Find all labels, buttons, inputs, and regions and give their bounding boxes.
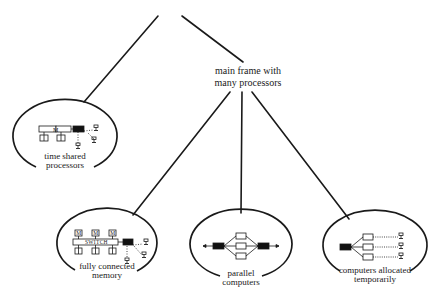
svg-text:SWITCH: SWITCH xyxy=(85,239,108,245)
ellipse-outline xyxy=(323,210,427,271)
edge-root-to-main-frame xyxy=(182,16,243,62)
node-parallel xyxy=(190,209,292,276)
label-line: memory xyxy=(66,271,148,280)
node-allocated xyxy=(323,210,427,271)
svg-text:M: M xyxy=(110,230,115,236)
allocated-label: computers allocated temporarily xyxy=(325,266,425,284)
terminal-icon xyxy=(399,253,403,259)
time-shared-schematic: M xyxy=(39,125,98,149)
cpu-block xyxy=(123,239,133,245)
edge-main-frame-to-allocated xyxy=(252,92,349,219)
controller-block xyxy=(340,244,351,250)
fully-connected-schematic: M M M SWITCH xyxy=(73,230,148,264)
time-shared-label: time shared processors xyxy=(25,152,105,170)
label-line: many processors xyxy=(198,77,298,89)
terminal-icon xyxy=(94,125,98,131)
computer-box xyxy=(236,253,246,259)
edge-root-to-time-shared xyxy=(84,16,158,102)
terminal-icon xyxy=(142,252,146,258)
memory-label: M xyxy=(53,127,59,133)
svg-text:M: M xyxy=(76,230,81,236)
cpu-block xyxy=(73,126,84,132)
output-block xyxy=(258,243,269,249)
input-block xyxy=(213,243,224,249)
label-line: main frame with xyxy=(198,65,298,77)
label-line: computers xyxy=(201,278,281,287)
terminal-icon xyxy=(399,233,403,239)
parallel-schematic xyxy=(203,233,279,259)
computer-box xyxy=(363,244,373,250)
edges xyxy=(84,16,349,219)
terminal-icon xyxy=(92,137,96,143)
label-line: processors xyxy=(25,161,105,170)
terminal-icon xyxy=(144,239,148,245)
tree-diagram: M M M M xyxy=(0,0,441,299)
svg-text:M: M xyxy=(93,230,98,236)
ellipse-outline xyxy=(190,209,292,276)
main-frame-label: main frame with many processors xyxy=(198,65,298,89)
edge-main-frame-to-parallel xyxy=(241,92,242,213)
computer-box xyxy=(236,243,246,249)
terminal-icon xyxy=(76,143,80,149)
label-line: temporarily xyxy=(325,275,425,284)
terminal-icon xyxy=(399,243,403,249)
edge-main-frame-to-fully-connected xyxy=(133,92,230,215)
allocated-schematic xyxy=(340,233,403,260)
computer-box xyxy=(236,233,246,239)
computer-box xyxy=(363,234,373,240)
fully-connected-label: fully connected memory xyxy=(66,262,148,280)
computer-box xyxy=(363,254,373,260)
parallel-label: parallel computers xyxy=(201,269,281,287)
